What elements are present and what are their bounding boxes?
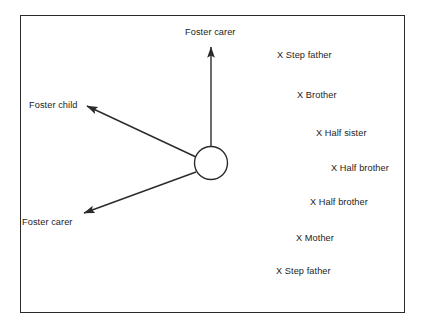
relation-label-foster-carer-top: Foster carer: [185, 27, 235, 38]
relation-label-foster-child-left: Foster child: [29, 100, 77, 111]
relative-label-half-brother-2: X Half brother: [310, 197, 368, 208]
relative-label-mother: X Mother: [296, 233, 334, 244]
relation-label-foster-carer-lower-left: Foster carer: [22, 217, 72, 228]
relative-label-step-father-2: X Step father: [276, 266, 331, 277]
relative-label-step-father-1: X Step father: [277, 50, 332, 61]
connection-line-foster-carer-lower-left: [84, 172, 196, 213]
relative-label-half-sister: X Half sister: [316, 128, 367, 139]
relative-label-brother: X Brother: [297, 90, 337, 101]
diagram-canvas: Foster carer Foster child Foster carer X…: [0, 0, 424, 328]
connection-line-foster-child-left: [87, 106, 196, 157]
connection-lines-group: [84, 47, 211, 213]
relative-label-half-brother-1: X Half brother: [331, 163, 389, 174]
focal-person-circle: [195, 147, 228, 180]
